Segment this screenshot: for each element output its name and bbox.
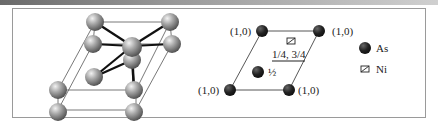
corner-label-bl: (1,0) — [198, 84, 219, 97]
projection-2d: (1,0) (1,0) (1,0) (1,0) ½ 1/4, 3/4 — [198, 25, 353, 97]
legend-label-ni: Ni — [376, 63, 387, 75]
atom — [49, 81, 67, 99]
as-atom — [283, 84, 295, 96]
ni-legend-icon — [361, 66, 369, 72]
ni-square-icon — [287, 38, 295, 44]
corner-label-tl: (1,0) — [230, 25, 251, 38]
atom — [122, 37, 142, 57]
atom — [163, 35, 181, 53]
atom — [125, 103, 143, 121]
atom — [85, 68, 103, 86]
corner-label-br: (1,0) — [298, 84, 319, 97]
center-label: ½ — [268, 66, 276, 78]
legend: As Ni — [359, 42, 388, 75]
as-legend-icon — [359, 42, 371, 54]
corner-label-tr: (1,0) — [332, 25, 353, 38]
ni-coord-label: 1/4, 3/4 — [272, 48, 306, 60]
atom — [86, 13, 104, 31]
as-atom — [224, 84, 236, 96]
atom — [161, 13, 179, 31]
legend-label-as: As — [376, 42, 388, 54]
unit-cell-3d — [49, 13, 181, 121]
as-atom-center — [252, 66, 264, 78]
atom — [49, 103, 67, 121]
atom — [125, 81, 143, 99]
atom — [84, 35, 102, 53]
figure-svg: (1,0) (1,0) (1,0) (1,0) ½ 1/4, 3/4 As Ni — [0, 0, 438, 132]
as-atom — [256, 25, 268, 37]
as-atom — [313, 25, 325, 37]
